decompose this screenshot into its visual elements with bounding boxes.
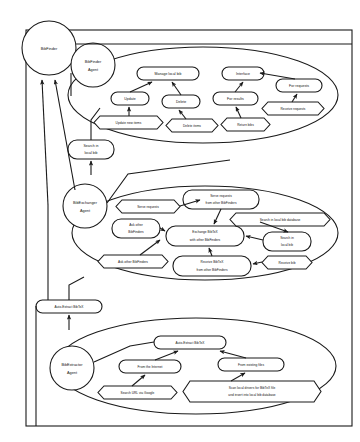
use-case-ask-other-bibfinders-uc-line2: BibFinders	[128, 230, 144, 234]
use-case-receive-bibtex-from-line1: Receive BibTeX	[201, 260, 225, 264]
actor-bibfinder-label: BibFinder	[41, 47, 58, 51]
use-case-diagram: BibFinder BibFinder Agent Manage local b…	[0, 0, 360, 442]
agent-bibextractor-agent-line2: Agent	[67, 371, 78, 375]
use-case-interface-label: Interface	[236, 72, 250, 76]
use-case-delete-label: Delete	[176, 100, 186, 104]
agent-bibextractor-agent[interactable]	[50, 346, 94, 390]
agent-bibfinder-agent-line2: Agent	[88, 68, 99, 72]
use-case-ask-other-bibfinders-uc-line1: Ask other	[129, 223, 144, 227]
agent-bibexchanger-agent[interactable]	[63, 184, 107, 228]
use-case-from-the-internet-label: From the Internet	[138, 365, 163, 369]
agent-bibexchanger-agent-line2: Agent	[80, 209, 91, 213]
action-search-local-db-label: Search in local bib database	[260, 218, 301, 222]
use-case-serve-requests-from[interactable]	[183, 190, 259, 209]
use-case-ask-other-bibfinders-uc[interactable]	[112, 219, 160, 238]
use-case-auto-extract-bibtex-2-label: Auto-Extract BibTeX	[176, 341, 206, 345]
agent-bibfinder-agent-line1: BibFinder	[85, 60, 102, 64]
use-case-update-label: Update	[124, 97, 135, 101]
use-case-search-in-local-bib-2-line1: Search in	[280, 236, 294, 240]
use-case-receive-bibtex-from[interactable]	[173, 256, 251, 276]
action-receive-requests-label: Receive requests	[281, 107, 306, 111]
use-case-exchange-bibtex-line2: with other BibFinders	[190, 238, 221, 242]
action-scan-local-drivers-line1: Scan local drivers for BibTeX file	[229, 386, 276, 390]
use-case-search-in-local-bib-2-line2: local bib	[281, 243, 293, 247]
use-case-for-requests-label: For requests	[289, 84, 309, 88]
agent-bibfinder-agent[interactable]	[71, 43, 115, 87]
action-return-bibs-label: Return bibs	[237, 123, 254, 127]
use-case-manage-local-bib-label: Manage local bib	[155, 72, 182, 76]
use-case-auto-extract-bibtex-1-label: Auto-Extract BibTeX	[55, 305, 85, 309]
use-case-exchange-bibtex-line1: Exchange BibTeX	[192, 230, 218, 234]
use-case-receive-bibtex-from-line2: from other BibFinders	[196, 268, 227, 272]
use-case-search-in-local-bib-1-line2: local bib	[84, 151, 97, 155]
use-case-search-in-local-bib-1[interactable]	[68, 140, 114, 159]
agent-bibextractor-agent-line1: BibExtractor	[62, 363, 84, 367]
use-case-from-existing-files-label: From existing files	[238, 363, 264, 367]
action-search-url-google-label: Search URL via Google	[121, 391, 155, 395]
action-scan-local-drivers-line2: and insert into local bib database	[228, 393, 275, 397]
use-case-search-in-local-bib-2[interactable]	[263, 232, 311, 251]
use-case-serve-requests-from-line2: from other BibFinders	[205, 201, 236, 205]
agent-bibexchanger-agent-line1: BibExchanger	[73, 201, 98, 205]
action-serve-requests-label: Serve requests	[137, 205, 159, 209]
use-case-exchange-bibtex[interactable]	[166, 226, 244, 246]
action-scan-local-drivers[interactable]	[183, 381, 321, 402]
use-case-search-in-local-bib-1-line1: Search in	[84, 144, 99, 148]
action-receive-bib-label: Receive bib	[279, 261, 296, 265]
action-ask-other-bibfinders-act-label: Ask other BibFinders	[118, 260, 148, 264]
use-case-serve-requests-from-line1: Serve requests	[210, 194, 232, 198]
use-case-for-results-label: For results	[227, 97, 244, 101]
action-delete-items-label: Delete items	[183, 124, 201, 128]
action-update-new-items-label: Update new items	[116, 121, 142, 125]
